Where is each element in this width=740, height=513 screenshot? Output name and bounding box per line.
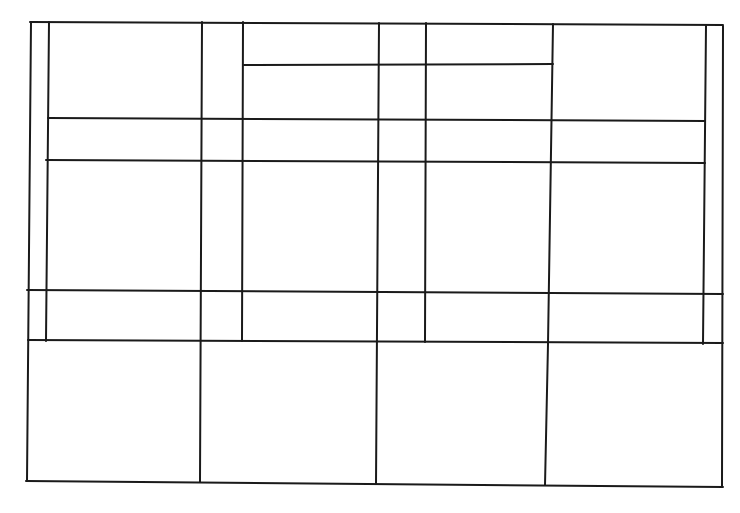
grid-line-vertical-545-lower	[545, 344, 548, 485]
grid-sketch-drawing	[0, 0, 740, 513]
grid-line-horizontal-291	[27, 290, 723, 294]
grid-line-left-outer-border	[27, 22, 31, 481]
grid-line-vertical-378	[376, 23, 379, 484]
grid-line-left-inner-border	[46, 22, 49, 341]
grid-line-vertical-202	[200, 22, 202, 482]
grid-sketch	[0, 0, 740, 513]
grid-line-vertical-243	[242, 22, 243, 341]
grid-line-horizontal-161	[46, 160, 705, 163]
grid-line-top-border	[30, 22, 723, 25]
grid-line-vertical-553	[548, 24, 553, 344]
grid-line-bottom-border	[26, 481, 723, 487]
grid-line-horizontal-65	[244, 64, 553, 65]
grid-line-right-inner-border	[703, 26, 706, 344]
grid-line-horizontal-119	[48, 118, 705, 121]
grid-line-horizontal-342	[28, 340, 723, 343]
grid-line-vertical-426	[425, 23, 426, 342]
grid-line-right-outer-border	[722, 26, 723, 487]
